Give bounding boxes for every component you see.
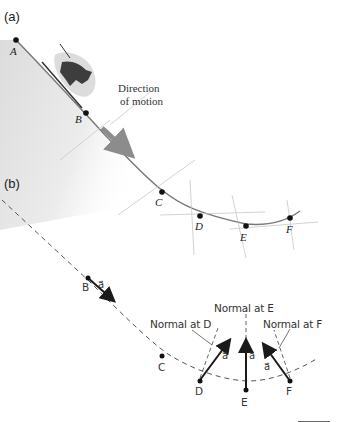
label-e: E bbox=[240, 231, 247, 243]
panel-b-label: (b) bbox=[4, 176, 20, 191]
label-f: F bbox=[286, 223, 293, 235]
panel-a-label: (a) bbox=[4, 9, 20, 24]
acceleration-vectors bbox=[88, 278, 290, 390]
point-b bbox=[83, 110, 89, 116]
point-f bbox=[287, 215, 293, 221]
label-d: D bbox=[195, 220, 203, 232]
label-b-b: B bbox=[82, 281, 89, 293]
point-e bbox=[243, 223, 249, 229]
panel-b-points bbox=[86, 276, 293, 393]
slope bbox=[0, 40, 300, 230]
normal-d-label: Normal at D bbox=[150, 318, 211, 330]
point-d bbox=[197, 213, 203, 219]
direction-of-motion-label: Direction of motion bbox=[118, 82, 163, 108]
point-f-b bbox=[288, 379, 293, 384]
point-c-b bbox=[160, 354, 165, 359]
vector-label-f: a⃗ bbox=[264, 361, 270, 372]
vector-label-b: a⃗ bbox=[98, 279, 104, 290]
label-c-b: C bbox=[158, 361, 165, 373]
normal-f-label: Normal at F bbox=[263, 318, 322, 330]
point-b-b bbox=[86, 276, 91, 281]
point-d-b bbox=[198, 379, 203, 384]
diagram-canvas bbox=[0, 0, 342, 422]
label-b: B bbox=[75, 113, 82, 125]
point-e-b bbox=[244, 388, 249, 393]
label-f-b: F bbox=[286, 385, 292, 397]
label-e-b: E bbox=[241, 396, 247, 408]
vector-label-d: a⃗ bbox=[222, 350, 228, 361]
vector-label-e: a⃗ bbox=[249, 350, 255, 361]
label-d-b: D bbox=[195, 385, 203, 397]
normal-leaders bbox=[192, 329, 290, 348]
label-c: C bbox=[155, 196, 162, 208]
point-c bbox=[159, 189, 165, 195]
normal-e-label: Normal at E bbox=[214, 302, 274, 314]
label-a: A bbox=[10, 45, 17, 57]
figure: (a) (b) A B C D E F Direction of motion … bbox=[0, 0, 342, 422]
point-a bbox=[13, 37, 19, 43]
